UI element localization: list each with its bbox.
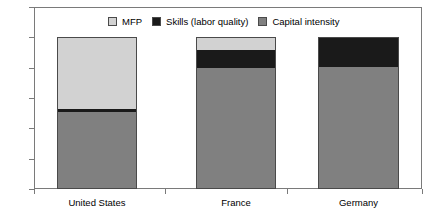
y-axis-tick-mark bbox=[29, 98, 34, 99]
legend-item-capital-intensity: Capital intensity bbox=[258, 16, 339, 27]
bar-segment-skills bbox=[197, 50, 275, 68]
bar-segment-mfp bbox=[197, 38, 275, 50]
y-axis-tick-mark bbox=[29, 7, 34, 8]
stacked-bar-chart: 120100806040200 United StatesFranceGerma… bbox=[0, 0, 431, 219]
legend-label: Skills (labor quality) bbox=[166, 16, 248, 27]
legend-item-mfp: MFP bbox=[108, 16, 142, 27]
x-axis-label-united-states: United States bbox=[32, 197, 162, 209]
legend-label: Capital intensity bbox=[272, 16, 339, 27]
bar-germany bbox=[318, 37, 399, 189]
bar-united-states bbox=[57, 37, 137, 189]
y-axis-tick-mark bbox=[29, 68, 34, 69]
y-axis-tick-mark bbox=[29, 37, 34, 38]
x-axis-tick-mark bbox=[34, 189, 35, 194]
bar-segment-skills bbox=[319, 38, 398, 66]
y-axis-tick-mark bbox=[29, 159, 34, 160]
legend-swatch-icon bbox=[108, 17, 117, 26]
bar-segment-mfp bbox=[58, 38, 136, 108]
legend-item-skills-labor-quality: Skills (labor quality) bbox=[152, 16, 248, 27]
x-axis-tick-mark bbox=[165, 189, 166, 194]
x-axis-tick-mark bbox=[422, 189, 423, 194]
bar-segment-capital-intensity bbox=[197, 68, 275, 188]
y-axis-tick-mark bbox=[29, 128, 34, 129]
y-axis: 120100806040200 bbox=[0, 0, 34, 219]
chart-legend: MFPSkills (labor quality)Capital intensi… bbox=[108, 13, 340, 30]
legend-swatch-icon bbox=[258, 17, 267, 26]
x-axis-tick-mark bbox=[287, 189, 288, 194]
bar-segment-capital-intensity bbox=[319, 67, 398, 188]
bar-segment-capital-intensity bbox=[58, 112, 136, 188]
bar-france bbox=[196, 37, 276, 189]
legend-swatch-icon bbox=[152, 17, 161, 26]
x-axis-label-france: France bbox=[171, 197, 301, 209]
legend-label: MFP bbox=[122, 16, 142, 27]
x-axis-label-germany: Germany bbox=[293, 197, 424, 209]
